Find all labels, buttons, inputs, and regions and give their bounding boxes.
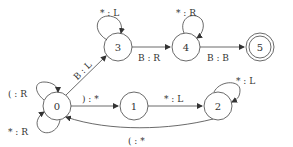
loop-0-bottom <box>37 112 60 133</box>
state-4-label: 4 <box>183 42 189 53</box>
label-0-0-top: ( : R <box>8 89 27 99</box>
label-3-4: B : R <box>138 53 160 63</box>
label-1-2: * : L <box>164 94 183 104</box>
label-0-1: ) : * <box>82 94 99 104</box>
label-3-3: * : L <box>100 8 119 18</box>
state-1-label: 1 <box>131 101 137 112</box>
state-5-label: 5 <box>257 42 263 53</box>
label-4-4: * : R <box>176 8 196 18</box>
state-3-label: 3 <box>115 42 121 53</box>
label-2-2: * : L <box>236 76 255 86</box>
state-0-label: 0 <box>54 101 60 112</box>
state-diagram: 0 1 2 3 4 5 ( : R * : R ) : * * : L * : … <box>0 0 293 147</box>
label-4-5: B : B <box>207 53 229 63</box>
label-0-0-bottom: * : R <box>8 127 28 137</box>
label-2-0: ( : * <box>128 136 145 146</box>
state-2-label: 2 <box>215 101 221 112</box>
loop-0-top <box>37 82 59 100</box>
